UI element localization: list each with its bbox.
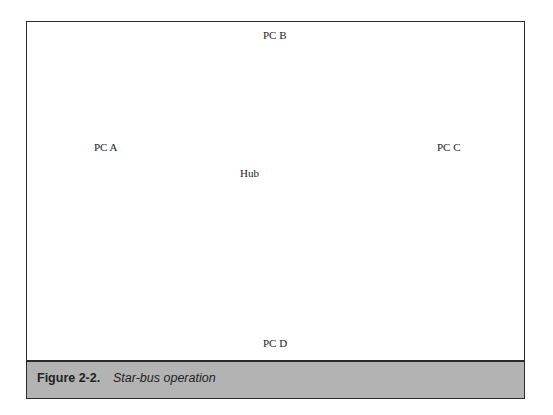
pc-a-label: PC A (94, 141, 118, 153)
pc-b-label: PC B (263, 29, 287, 41)
pc-d-label: PC D (263, 337, 287, 349)
pc-c-label: PC C (437, 141, 461, 153)
figure-number: Figure 2-2. (37, 371, 100, 385)
figure-title: Star-bus operation (113, 371, 216, 385)
caption-bar: Figure 2-2. Star-bus operation (27, 360, 524, 398)
hub-label: Hub (240, 167, 259, 179)
